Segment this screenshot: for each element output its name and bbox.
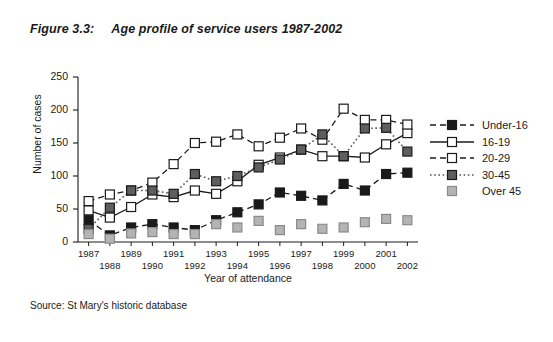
data-point	[275, 188, 284, 197]
data-point	[403, 147, 412, 156]
data-point	[105, 234, 114, 243]
data-point	[233, 172, 242, 181]
data-point	[84, 230, 93, 239]
data-point	[403, 168, 412, 177]
data-point	[382, 123, 391, 132]
legend-label: Over 45	[482, 185, 521, 197]
legend-marker-icon	[428, 117, 476, 133]
x-tick-label: 1994	[221, 260, 253, 271]
x-tick-label: 1996	[264, 260, 296, 271]
data-point	[169, 230, 178, 239]
x-axis-title: Year of attendance	[78, 272, 418, 284]
legend-label: 30-45	[482, 169, 510, 181]
data-point	[403, 216, 412, 225]
data-point	[212, 177, 221, 186]
legend-item[interactable]: 30-45	[428, 167, 548, 184]
data-point	[360, 124, 369, 133]
data-point	[190, 139, 199, 148]
data-point	[127, 186, 136, 195]
data-point	[339, 104, 348, 113]
data-point	[212, 220, 221, 229]
data-point	[360, 186, 369, 195]
data-point	[318, 224, 327, 233]
data-point	[297, 191, 306, 200]
x-tick-label: 1992	[179, 260, 211, 271]
data-point	[360, 218, 369, 227]
legend-marker-icon	[428, 150, 476, 166]
data-point	[339, 179, 348, 188]
y-tick-label: 0	[34, 236, 68, 247]
data-point	[297, 145, 306, 154]
data-point	[233, 130, 242, 139]
data-point	[105, 213, 114, 222]
x-tick-label: 1999	[328, 248, 360, 259]
data-point	[105, 190, 114, 199]
data-point	[212, 137, 221, 146]
x-tick-label: 1995	[243, 248, 275, 259]
data-point	[318, 196, 327, 205]
data-point	[275, 226, 284, 235]
data-point	[297, 220, 306, 229]
data-point	[84, 216, 93, 225]
data-point	[254, 216, 263, 225]
data-point	[233, 223, 242, 232]
data-point	[360, 153, 369, 162]
x-tick-label: 1988	[94, 260, 126, 271]
x-tick-label: 1991	[158, 248, 190, 259]
data-point	[297, 124, 306, 133]
data-point	[212, 189, 221, 198]
y-tick-label: 100	[34, 170, 68, 181]
x-tick-label: 2000	[349, 260, 381, 271]
x-tick-label: 1997	[285, 248, 317, 259]
legend-item[interactable]: Over 45	[428, 183, 548, 200]
legend-marker-icon	[428, 134, 476, 150]
data-point	[84, 197, 93, 206]
legend-item[interactable]: Under-16	[428, 117, 548, 134]
data-point	[382, 170, 391, 179]
chart-series	[84, 214, 412, 243]
data-point	[148, 228, 157, 237]
data-point	[84, 206, 93, 215]
data-point	[403, 129, 412, 138]
chart-legend: Under-1616-1920-2930-45Over 45	[428, 117, 548, 200]
x-tick-label: 2001	[370, 248, 402, 259]
data-point	[254, 142, 263, 151]
y-tick-label: 150	[34, 137, 68, 148]
data-point	[360, 115, 369, 124]
legend-item[interactable]: 16-19	[428, 134, 548, 151]
data-point	[105, 203, 114, 212]
data-point	[275, 133, 284, 142]
legend-label: Under-16	[482, 119, 528, 131]
x-tick-label: 1993	[200, 248, 232, 259]
data-point	[190, 170, 199, 179]
data-point	[318, 152, 327, 161]
data-point	[190, 230, 199, 239]
x-tick-label: 2002	[391, 260, 423, 271]
data-point	[233, 208, 242, 217]
data-point	[275, 155, 284, 164]
legend-marker-icon	[428, 183, 476, 199]
data-point	[169, 160, 178, 169]
data-point	[339, 223, 348, 232]
x-tick-label: 1998	[306, 260, 338, 271]
data-point	[169, 189, 178, 198]
x-tick-label: 1990	[136, 260, 168, 271]
data-point	[382, 214, 391, 223]
data-point	[254, 163, 263, 172]
y-tick-label: 50	[34, 203, 68, 214]
y-tick-label: 250	[34, 71, 68, 82]
data-point	[382, 140, 391, 149]
legend-label: 16-19	[482, 136, 510, 148]
x-tick-label: 1987	[73, 248, 105, 259]
legend-item[interactable]: 20-29	[428, 150, 548, 167]
data-point	[254, 200, 263, 209]
x-tick-label: 1989	[115, 248, 147, 259]
y-tick-label: 200	[34, 104, 68, 115]
data-point	[403, 120, 412, 129]
legend-label: 20-29	[482, 152, 510, 164]
source-note: Source: St Mary's historic database	[30, 300, 187, 311]
data-point	[127, 203, 136, 212]
data-point	[127, 229, 136, 238]
data-point	[148, 186, 157, 195]
data-point	[339, 152, 348, 161]
